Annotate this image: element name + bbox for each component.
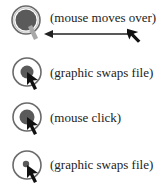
step-graphic-swaps-file-hover: (graphic swaps file) xyxy=(0,52,167,96)
button-pressed-icon xyxy=(9,147,49,191)
button-click-icon xyxy=(9,99,49,141)
step-label: (mouse click) xyxy=(50,111,121,125)
step-mouse-moves-over: (mouse moves over) xyxy=(0,0,167,48)
step-mouse-click: (mouse click) xyxy=(0,97,167,141)
step-label: (graphic swaps file) xyxy=(50,158,153,172)
step-label: (mouse moves over) xyxy=(50,11,156,25)
step-graphic-swaps-file-pressed: (graphic swaps file) xyxy=(0,144,167,190)
button-hover-icon xyxy=(9,54,49,96)
mouse-cursor-icon xyxy=(127,25,145,47)
left-arrow-icon xyxy=(44,30,128,38)
rollover-button-icon xyxy=(8,2,48,46)
step-label: (graphic swaps file) xyxy=(50,66,153,80)
